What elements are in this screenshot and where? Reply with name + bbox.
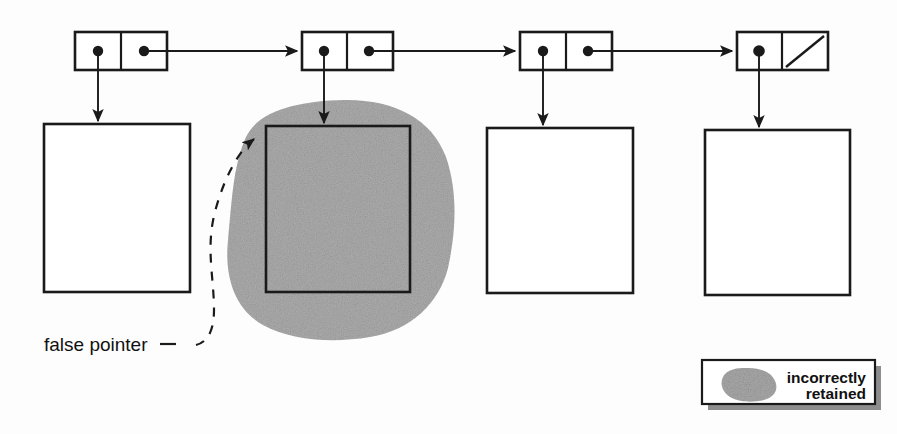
- cons-cell-4: [737, 32, 828, 70]
- block-1: [44, 124, 190, 292]
- diagram-canvas: false pointer incorrectly retained: [0, 0, 897, 434]
- incorrectly-retained-blob: [227, 100, 454, 340]
- legend-line-2: retained: [806, 385, 866, 402]
- block-3: [487, 128, 633, 293]
- legend-line-1: incorrectly: [787, 369, 867, 386]
- false-pointer-label: false pointer: [44, 334, 148, 355]
- block-4: [705, 130, 850, 295]
- memory-graph-svg: false pointer incorrectly retained: [0, 0, 897, 434]
- legend-blob-swatch: [722, 368, 777, 402]
- legend: incorrectly retained: [702, 360, 881, 410]
